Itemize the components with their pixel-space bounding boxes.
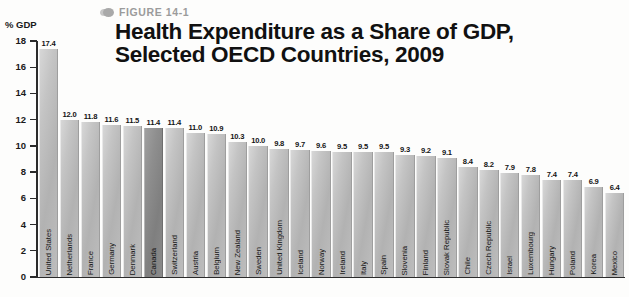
y-axis-tick-label: 14 (0, 87, 26, 98)
bar[interactable]: 7.4Hungary (542, 180, 561, 277)
bar-slot: 10.9Belgium (206, 41, 227, 277)
bar-slot: 9.5Italy (353, 41, 374, 277)
y-axis-tick-label: 18 (0, 35, 26, 46)
x-axis-category-wrap: Czech Republic (480, 199, 497, 277)
figure-label: FIGURE 14-1 (103, 6, 189, 18)
x-axis-category-wrap: Italy (354, 199, 371, 277)
bar-value-label: 9.3 (400, 145, 410, 154)
bar[interactable]: 9.6Norway (311, 151, 330, 277)
bar-slot: 10.3New Zealand (227, 41, 248, 277)
bar[interactable]: 9.1Slovak Republic (437, 158, 456, 277)
bar[interactable]: 10.0Sweden (248, 146, 267, 277)
x-axis-category-wrap: Slovenia (396, 199, 413, 277)
bar-slot: 11.5Denmark (122, 41, 143, 277)
bar[interactable]: 8.4Chile (458, 167, 477, 277)
x-axis-category-wrap: Canada (145, 199, 162, 277)
x-axis-category-wrap: Ireland (333, 199, 350, 277)
bar-slot: 11.8France (80, 41, 101, 277)
bar-value-label: 7.9 (505, 163, 515, 172)
bar-value-label: 8.4 (463, 157, 473, 166)
bar[interactable]: 11.0Austria (186, 133, 205, 277)
bar-slot: 7.4Poland (562, 41, 583, 277)
bar-slot: 9.3Slovenia (394, 41, 415, 277)
x-axis-category-label: Korea (589, 254, 598, 275)
bar[interactable]: 11.4Switzerland (165, 128, 184, 277)
bar-value-label: 9.8 (274, 139, 284, 148)
y-axis-tick-mark (30, 67, 37, 68)
x-axis-category-label: Netherlands (65, 234, 74, 275)
bar[interactable]: 11.4Canada (144, 128, 163, 277)
bar-slot: 7.4Hungary (541, 41, 562, 277)
bar[interactable]: 6.9Korea (584, 187, 603, 277)
bar[interactable]: 10.9Belgium (207, 134, 226, 277)
x-axis-category-wrap: Norway (312, 199, 329, 277)
x-axis-category-wrap: Chile (459, 199, 476, 277)
x-axis-category-label: Switzerland (170, 235, 179, 275)
x-axis-category-wrap: United Kingdom (270, 199, 287, 277)
x-axis-category-label: Spain (379, 255, 388, 275)
bar-value-label: 7.4 (568, 170, 578, 179)
bar-slot: 9.5Ireland (332, 41, 353, 277)
bar[interactable]: 7.4Poland (563, 180, 582, 277)
bar-value-label: 8.2 (484, 160, 494, 169)
bar-slot: 11.0Austria (185, 41, 206, 277)
bar[interactable]: 6.4Mexico (605, 193, 624, 277)
bar-value-label: 11.5 (126, 116, 140, 125)
bar-value-label: 17.4 (41, 39, 55, 48)
bar-value-label: 10.3 (230, 132, 244, 141)
bar-value-label: 11.8 (84, 112, 98, 121)
x-axis-category-label: Iceland (296, 250, 305, 275)
x-axis-category-label: Ireland (338, 251, 347, 275)
bar[interactable]: 10.3New Zealand (228, 142, 247, 277)
bar-value-label: 9.6 (316, 141, 326, 150)
bar-value-label: 11.4 (168, 118, 182, 127)
x-axis-category-wrap: Austria (187, 199, 204, 277)
y-axis-tick-label: 4 (0, 219, 26, 230)
x-axis-category-wrap: Sweden (249, 199, 266, 277)
figure-container: FIGURE 14-1 Health Expenditure as a Shar… (0, 0, 629, 297)
bar-value-label: 9.7 (295, 140, 305, 149)
x-axis-category-wrap: Spain (375, 199, 392, 277)
x-axis-category-label: Hungary (547, 246, 556, 275)
x-axis-category-label: Norway (317, 249, 326, 275)
bar-value-label: 11.0 (188, 123, 202, 132)
x-axis-category-wrap: Belgium (208, 199, 225, 277)
bar[interactable]: 11.5Denmark (123, 126, 142, 277)
x-axis-category-label: Germany (107, 243, 116, 275)
bar-slot: 11.4Switzerland (164, 41, 185, 277)
bar[interactable]: 11.6Germany (102, 125, 121, 277)
x-axis-category-wrap: New Zealand (229, 199, 246, 277)
bar[interactable]: 9.3Slovenia (395, 155, 414, 277)
figure-label-text: FIGURE 14-1 (119, 6, 189, 18)
bar[interactable]: 9.5Ireland (332, 152, 351, 277)
bar[interactable]: 7.8Luxembourg (521, 175, 540, 277)
bar[interactable]: 9.5Spain (374, 152, 393, 277)
x-axis-category-wrap: Hungary (543, 199, 560, 277)
x-axis-category-label: Austria (191, 251, 200, 275)
bar-value-label: 10.9 (209, 124, 223, 133)
x-axis-category-wrap: Poland (564, 199, 581, 277)
bar[interactable]: 7.9Israel (500, 173, 519, 277)
bar[interactable]: 9.8United Kingdom (269, 149, 288, 277)
bar[interactable]: 9.7Iceland (290, 150, 309, 277)
bar[interactable]: 9.5Italy (353, 152, 372, 277)
bar-value-label: 9.5 (358, 142, 368, 151)
bar[interactable]: 11.8France (81, 122, 100, 277)
bar-value-label: 7.4 (547, 170, 557, 179)
x-axis-category-label: Finland (421, 250, 430, 275)
bar-value-label: 7.8 (526, 165, 536, 174)
x-axis-category-wrap: Germany (103, 199, 120, 277)
bar-slot: 11.4Canada (143, 41, 164, 277)
y-axis-tick-label: 6 (0, 192, 26, 203)
x-axis-category-label: New Zealand (233, 230, 242, 275)
bar[interactable]: 17.4United States (39, 49, 58, 277)
bar[interactable]: 9.2Finland (416, 156, 435, 277)
bar-value-label: 10.0 (251, 136, 265, 145)
y-axis-tick-mark (30, 171, 37, 172)
y-axis-tick-mark (30, 145, 37, 146)
bar[interactable]: 8.2Czech Republic (479, 170, 498, 278)
x-axis-category-wrap: Korea (585, 199, 602, 277)
bar-slot: 8.2Czech Republic (478, 41, 499, 277)
bar[interactable]: 12.0Netherlands (60, 120, 79, 277)
x-axis-category-label: Slovak Republic (442, 220, 451, 275)
